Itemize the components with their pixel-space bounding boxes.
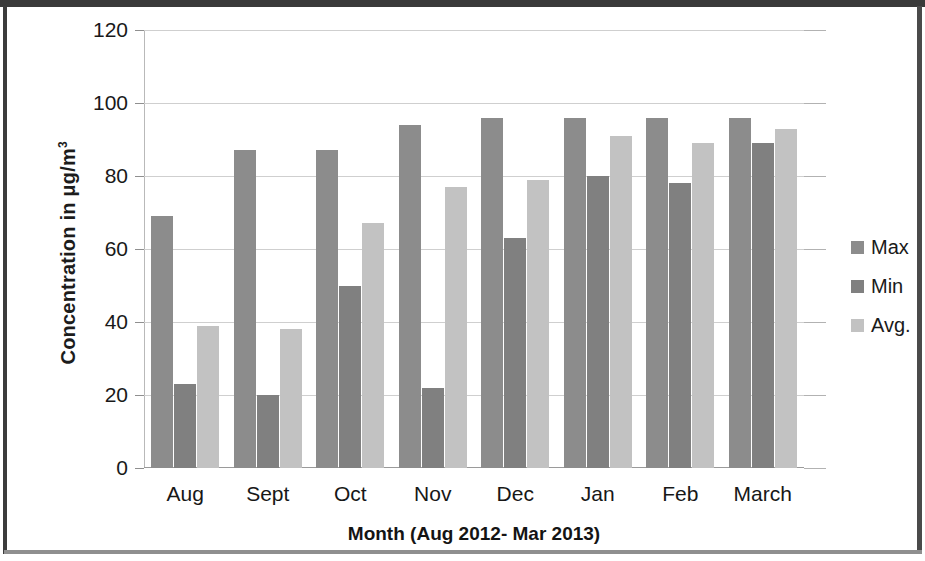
bar-min-march: [752, 143, 774, 468]
bar-min-nov: [422, 388, 444, 468]
y-tick-label: 80: [105, 164, 128, 188]
y-axis-title-text: Concentration in μg/m: [57, 148, 79, 364]
bar-group: [722, 30, 805, 468]
bar-chart: Concentration in μg/m3 020406080100120 A…: [0, 0, 925, 561]
bar-max-aug: [151, 216, 173, 468]
bar-avg-feb: [692, 143, 714, 468]
legend-label: Avg.: [871, 314, 911, 337]
bar-avg-dec: [527, 180, 549, 468]
y-tick-mark-right: [804, 322, 826, 323]
legend-swatch-icon: [851, 241, 864, 254]
bar-avg-sept: [280, 329, 302, 468]
bar-max-jan: [564, 118, 586, 468]
bar-avg-jan: [610, 136, 632, 468]
bar-min-oct: [339, 286, 361, 469]
legend-swatch-icon: [851, 280, 864, 293]
x-tick-label: Oct: [334, 482, 367, 506]
y-tick-mark: [135, 176, 144, 177]
bar-group: [557, 30, 640, 468]
chart-page: Concentration in μg/m3 020406080100120 A…: [0, 0, 925, 561]
y-tick-mark: [135, 322, 144, 323]
bar-group: [227, 30, 310, 468]
x-tick-label: Nov: [414, 482, 451, 506]
bar-avg-aug: [197, 326, 219, 468]
y-tick-label: 40: [105, 310, 128, 334]
bar-min-dec: [504, 238, 526, 468]
y-tick-mark-right: [804, 176, 826, 177]
y-tick-mark-right: [804, 395, 826, 396]
legend-label: Min: [871, 275, 903, 298]
y-tick-mark: [135, 395, 144, 396]
bar-series-container: [144, 30, 804, 468]
y-tick-mark: [135, 249, 144, 250]
y-tick-mark-right: [804, 249, 826, 250]
bar-max-dec: [481, 118, 503, 468]
y-tick-mark-right: [804, 103, 826, 104]
x-tick-label: Jan: [581, 482, 615, 506]
bar-group: [309, 30, 392, 468]
y-tick-label: 0: [116, 456, 128, 480]
legend-swatch-icon: [851, 319, 864, 332]
y-tick-label: 20: [105, 383, 128, 407]
bar-max-oct: [316, 150, 338, 468]
legend-item: Max: [851, 228, 921, 267]
x-tick-label: March: [734, 482, 792, 506]
bar-max-feb: [646, 118, 668, 468]
bar-group: [474, 30, 557, 468]
bar-group: [392, 30, 475, 468]
chart-legend: MaxMinAvg.: [851, 228, 921, 345]
x-tick-label: Sept: [246, 482, 289, 506]
bar-avg-nov: [445, 187, 467, 468]
bar-max-march: [729, 118, 751, 468]
bar-avg-march: [775, 129, 797, 468]
bar-group: [639, 30, 722, 468]
y-tick-mark-right: [804, 468, 826, 469]
x-tick-label: Dec: [497, 482, 534, 506]
bar-max-sept: [234, 150, 256, 468]
bar-min-jan: [587, 176, 609, 468]
legend-item: Min: [851, 267, 921, 306]
bar-group: [144, 30, 227, 468]
legend-label: Max: [871, 236, 909, 259]
bar-min-aug: [174, 384, 196, 468]
bar-avg-oct: [362, 223, 384, 468]
y-axis-title: Concentration in μg/m3: [56, 23, 80, 483]
y-tick-mark: [135, 103, 144, 104]
plot-area: 020406080100120 AugSeptOctNovDecJanFebMa…: [144, 30, 804, 468]
x-tick-label: Feb: [662, 482, 698, 506]
y-tick-mark: [135, 30, 144, 31]
y-tick-label: 120: [93, 18, 128, 42]
bar-max-nov: [399, 125, 421, 468]
y-tick-mark: [135, 468, 144, 469]
bar-min-feb: [669, 183, 691, 468]
x-tick-label: Aug: [167, 482, 204, 506]
y-axis-title-exponent: 3: [56, 141, 70, 148]
y-tick-label: 60: [105, 237, 128, 261]
x-axis-title: Month (Aug 2012- Mar 2013): [144, 523, 804, 545]
y-tick-mark-right: [804, 30, 826, 31]
legend-item: Avg.: [851, 306, 921, 345]
bar-min-sept: [257, 395, 279, 468]
y-tick-label: 100: [93, 91, 128, 115]
